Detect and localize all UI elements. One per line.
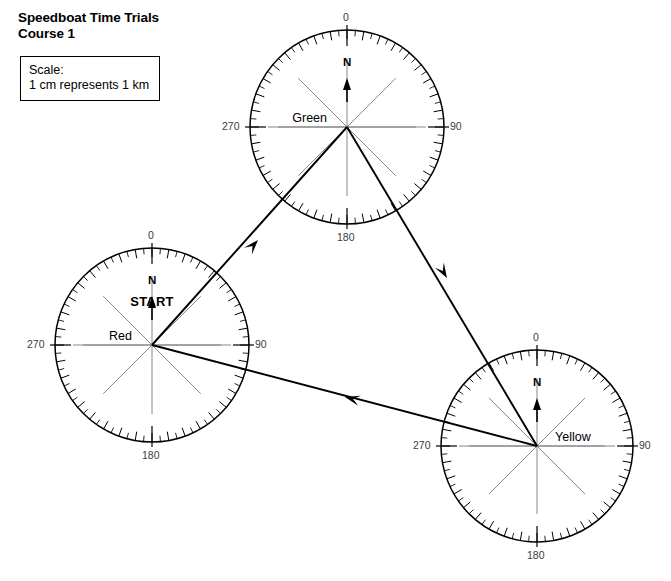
rose-tick [144, 436, 145, 442]
title-line-2: Course 1 [18, 26, 278, 42]
rose-tick [160, 248, 161, 254]
leg-arrowhead [435, 263, 447, 279]
rose-tick [55, 337, 61, 338]
rose-tick [627, 454, 633, 455]
station-label-red: Red [109, 329, 132, 343]
tick-label-0-green: 0 [343, 11, 349, 23]
tick-label-0-red: 0 [148, 229, 154, 241]
tick-label-270-red: 270 [27, 338, 45, 350]
tick-label-90-green: 90 [450, 120, 462, 132]
scale-label: Scale: [29, 63, 149, 78]
north-label-yellow: N [533, 376, 541, 388]
rose-tick [355, 218, 356, 224]
leg-line [347, 127, 537, 446]
leg-line [152, 127, 347, 345]
tick-label-0-yellow: 0 [533, 331, 539, 343]
title-line-1: Speedboat Time Trials [18, 10, 278, 26]
rose-tick [441, 438, 447, 439]
rose-tick [441, 454, 447, 455]
north-label-green: N [343, 56, 351, 68]
rose-tick [243, 353, 249, 354]
tick-label-180-green: 180 [337, 231, 355, 243]
diagram-page: Speedboat Time Trials Course 1 Scale: 1 … [0, 0, 671, 581]
tick-label-90-red: 90 [255, 338, 267, 350]
rose-tick [438, 119, 444, 120]
compass-roses-layer [50, 25, 638, 547]
start-label: START [130, 294, 173, 309]
rose-tick [144, 248, 145, 254]
rose-tick [438, 135, 444, 136]
tick-label-180-yellow: 180 [527, 549, 545, 561]
rose-tick [339, 218, 340, 224]
rose-tick [529, 536, 530, 542]
rose-tick [243, 337, 249, 338]
rose-tick [529, 350, 530, 356]
leg-arrowhead [345, 396, 361, 406]
rose-tick [545, 350, 546, 356]
course-leg-red-to-green [152, 127, 347, 345]
page-title: Speedboat Time Trials Course 1 [18, 10, 278, 42]
rose-tick [339, 30, 340, 36]
tick-label-270-yellow: 270 [413, 439, 431, 451]
rose-tick [250, 119, 256, 120]
rose-tick [250, 135, 256, 136]
north-label-red: N [148, 274, 156, 286]
rose-tick [355, 30, 356, 36]
scale-value: 1 cm represents 1 km [29, 78, 149, 93]
station-label-yellow: Yellow [555, 430, 591, 444]
rose-tick [55, 353, 61, 354]
leg-arrowhead [244, 240, 258, 255]
tick-label-90-yellow: 90 [639, 439, 651, 451]
tick-label-180-red: 180 [142, 449, 160, 461]
station-label-green: Green [292, 111, 327, 125]
course-leg-green-to-yellow [347, 127, 537, 446]
scale-box: Scale: 1 cm represents 1 km [20, 56, 160, 101]
rose-tick [160, 436, 161, 442]
tick-label-270-green: 270 [222, 120, 240, 132]
rose-tick [545, 536, 546, 542]
rose-tick [627, 438, 633, 439]
